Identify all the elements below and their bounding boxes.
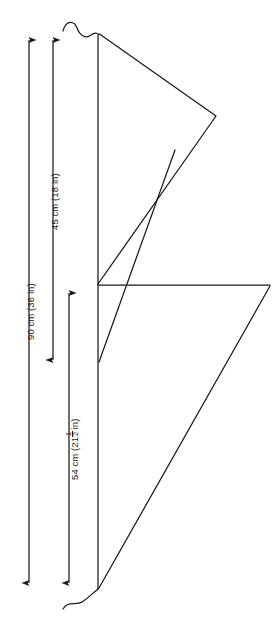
fraction-denominator: 2	[73, 431, 79, 436]
bottom-break-wavy-line	[63, 589, 99, 610]
diagram-canvas	[0, 0, 273, 624]
structure-group	[63, 22, 270, 609]
lower-triangle	[99, 286, 270, 588]
dimension-label-lower-section: 54 cm (2112in)	[66, 419, 80, 480]
lower-label-text-before: 54 cm (21	[69, 437, 80, 480]
lower-label-text-after: in)	[69, 419, 80, 430]
middle-diagonal	[99, 150, 175, 362]
dimension-label-overall-height: 90 cm (36 in)	[26, 283, 36, 340]
upper-triangle	[98, 34, 216, 284]
lower-label-fraction: 12	[66, 431, 80, 436]
technical-diagram: 90 cm (36 in) 45 cm (18 in) 54 cm (2112i…	[0, 0, 273, 624]
dimension-label-upper-section: 45 cm (18 in)	[50, 173, 60, 230]
top-break-wavy-line	[63, 22, 99, 36]
